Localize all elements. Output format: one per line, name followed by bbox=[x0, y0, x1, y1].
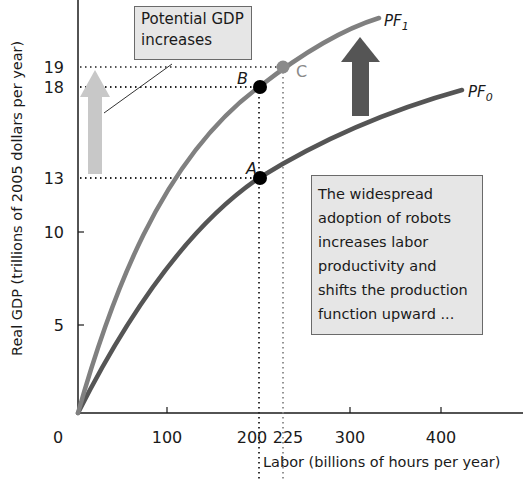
potential-gdp-line-2: increases bbox=[141, 30, 251, 51]
robots-line-1: The widespread bbox=[318, 182, 482, 206]
robots-line-3: increases labor bbox=[318, 230, 482, 254]
point-a-label: A bbox=[245, 159, 257, 178]
robots-line-6: function upward ... bbox=[318, 302, 482, 326]
robots-callout: The widespread adoption of robots increa… bbox=[311, 175, 483, 335]
svg-text:100: 100 bbox=[152, 428, 183, 447]
svg-text:10: 10 bbox=[44, 223, 64, 242]
robots-line-5: shifts the production bbox=[318, 278, 482, 302]
svg-text:0: 0 bbox=[53, 428, 63, 447]
svg-text:400: 400 bbox=[426, 428, 457, 447]
point-b-marker bbox=[253, 80, 267, 94]
potential-gdp-callout: Potential GDP increases bbox=[134, 6, 252, 60]
robots-line-4: productivity and bbox=[318, 254, 482, 278]
y-axis-ticks bbox=[78, 232, 84, 325]
guide-lines bbox=[80, 67, 283, 481]
svg-text:300: 300 bbox=[335, 428, 366, 447]
robots-line-2: adoption of robots bbox=[318, 206, 482, 230]
x-axis-title: Labor (billions of hours per year) bbox=[263, 454, 500, 470]
shift-up-arrow bbox=[341, 37, 380, 116]
pf1-label: PF1 bbox=[384, 12, 409, 33]
potential-gdp-line-1: Potential GDP bbox=[141, 9, 251, 30]
point-b-label: B bbox=[237, 69, 248, 88]
svg-text:5: 5 bbox=[54, 316, 64, 335]
svg-text:225: 225 bbox=[273, 428, 304, 447]
y-tick-labels: 19 18 13 10 5 bbox=[44, 58, 64, 335]
pf0-label: PF0 bbox=[468, 83, 493, 104]
point-c-marker bbox=[277, 61, 290, 74]
svg-text:13: 13 bbox=[44, 169, 64, 188]
x-tick-labels: 0 100 200 225 300 400 bbox=[53, 428, 456, 447]
point-c-label: C bbox=[296, 62, 307, 81]
x-axis-ticks bbox=[167, 407, 441, 413]
potential-gdp-arrow bbox=[80, 70, 110, 174]
svg-text:18: 18 bbox=[44, 78, 64, 97]
svg-text:200: 200 bbox=[237, 428, 268, 447]
svg-text:19: 19 bbox=[44, 58, 64, 77]
y-axis-title: Real GDP (trillions of 2005 dollars per … bbox=[9, 41, 25, 356]
callout-leader-line bbox=[104, 64, 172, 113]
